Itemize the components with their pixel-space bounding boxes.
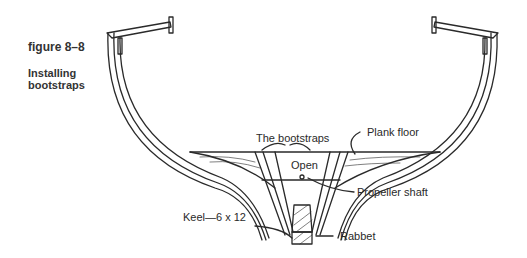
label-keel: Keel—6 x 12: [183, 211, 246, 223]
label-plank-floor: Plank floor: [367, 126, 419, 138]
propeller-shaft-hole: [300, 175, 304, 179]
label-rabbet: Rabbet: [340, 230, 375, 242]
hull-cross-section-drawing: [0, 0, 527, 258]
label-bootstraps: The bootstraps: [256, 132, 329, 144]
left-frame: [107, 17, 269, 240]
label-propeller-shaft: Propeller shaft: [357, 186, 428, 198]
label-open: Open: [291, 159, 318, 171]
